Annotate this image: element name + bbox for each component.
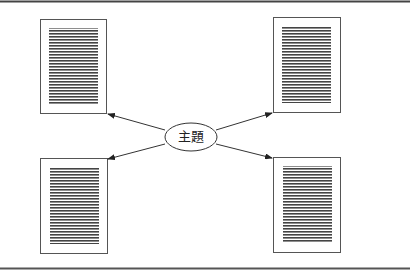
document-top-right [274,18,341,113]
arrow-to-bottom-right [216,144,272,158]
topic-label: 主題 [165,127,217,147]
document-bottom-left [41,159,108,254]
arrow-to-top-right [216,113,272,130]
arrow-to-bottom-left [108,144,165,159]
arrow-to-top-left [108,114,165,130]
document-top-left [41,20,107,114]
document-bottom-right [274,158,341,253]
